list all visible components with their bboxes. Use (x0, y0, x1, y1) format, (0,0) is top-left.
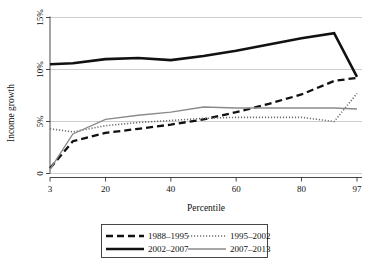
x-tick-label-3: 60 (232, 184, 242, 194)
x-axis-title: Percentile (187, 203, 225, 213)
legend-label-3: 2007–2013 (230, 244, 271, 254)
y-tick-label-3: 15% (35, 9, 45, 26)
x-tick-label-0: 3 (48, 184, 53, 194)
x-tick-label-2: 40 (166, 184, 176, 194)
x-tick-label-4: 80 (297, 184, 307, 194)
x-ticks (50, 178, 357, 182)
legend-label-1: 1995–2002 (230, 231, 271, 241)
y-tick-label-2: 10% (35, 61, 45, 78)
legend-label-2: 2002–2007 (148, 244, 189, 254)
line-chart-canvas: 05%10%15% 32040608097 Income growth Perc… (0, 0, 371, 273)
legend-label-0: 1988–1995 (148, 231, 189, 241)
x-tick-label-5: 97 (353, 184, 363, 194)
y-tick-label-0: 0 (35, 171, 45, 176)
series-line-2007-2013 (50, 107, 357, 169)
x-tick-labels: 32040608097 (48, 184, 362, 194)
series-line-2002-2007 (50, 33, 357, 77)
y-ticks (46, 18, 50, 174)
series-line-1995-2002 (50, 93, 357, 131)
y-gridlines (50, 18, 362, 174)
y-tick-labels: 05%10%15% (35, 9, 45, 176)
x-tick-label-1: 20 (101, 184, 111, 194)
chart-figure: 05%10%15% 32040608097 Income growth Perc… (0, 0, 371, 273)
y-axis-title: Income growth (6, 84, 16, 142)
legend: 1988–19951995–20022002–20072007–2013 (102, 225, 272, 258)
y-tick-label-1: 5% (35, 115, 45, 128)
series-group (50, 33, 357, 169)
